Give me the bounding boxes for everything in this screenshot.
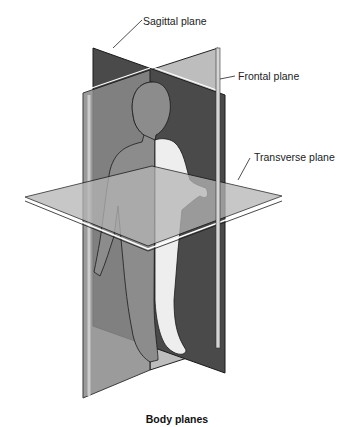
transverse-leader-line xyxy=(238,158,250,180)
transverse-plane xyxy=(25,166,282,246)
diagram-caption: Body planes xyxy=(146,413,209,425)
body-planes-diagram: Sagittal plane Frontal plane Transverse … xyxy=(0,0,354,427)
sagittal-leader-line xyxy=(113,20,142,48)
frontal-plane-label: Frontal plane xyxy=(238,70,299,82)
frontal-leader-line xyxy=(220,76,235,79)
transverse-plane-label: Transverse plane xyxy=(254,151,335,163)
sagittal-plane-label: Sagittal plane xyxy=(143,15,207,27)
